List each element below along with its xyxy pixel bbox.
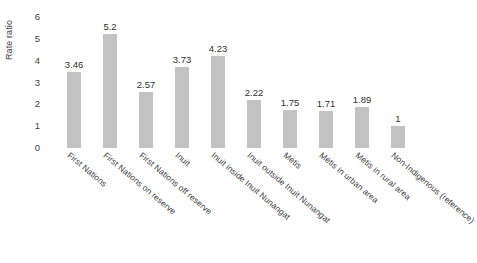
y-axis-tick-1: 1 [24, 121, 40, 131]
y-axis-tick-5: 5 [24, 34, 40, 44]
y-axis-tick-3: 3 [24, 78, 40, 88]
bar-value-label: 1 [376, 113, 420, 124]
bar [283, 110, 297, 148]
bar-value-label: 2.57 [124, 79, 168, 90]
bar-value-label: 3.73 [160, 54, 204, 65]
y-axis-tick-0: 0 [24, 143, 40, 153]
bar-group: 1.75 [272, 17, 308, 148]
bar-group: 1.71 [308, 17, 344, 148]
bar-group: 4.23 [200, 17, 236, 148]
bar [247, 100, 261, 148]
bar-value-label: 3.46 [52, 59, 96, 70]
bar-value-label: 5.2 [88, 21, 132, 32]
bar [67, 72, 81, 148]
x-axis-label-8: Métis in urban area [318, 150, 381, 205]
bar [103, 34, 117, 148]
bar-group: 1.89 [344, 17, 380, 148]
bar-value-label: 4.23 [196, 43, 240, 54]
bar [211, 56, 225, 148]
y-axis-tick-4: 4 [24, 56, 40, 66]
bar [319, 111, 333, 148]
bar [175, 67, 189, 148]
x-axis-label-7: Métis [282, 150, 304, 171]
bar-group: 3.73 [164, 17, 200, 148]
bar [139, 92, 153, 148]
bar-group: 2.57 [128, 17, 164, 148]
plot-area: 3.465.22.573.734.232.221.751.711.891 [48, 17, 426, 148]
bar-group: 3.46 [56, 17, 92, 148]
bar-group: 2.22 [236, 17, 272, 148]
bar-group: 5.2 [92, 17, 128, 148]
y-axis-tick-6: 6 [24, 12, 40, 22]
y-axis-tick-2: 2 [24, 99, 40, 109]
bar-value-label: 1.89 [340, 94, 384, 105]
x-axis-category-labels: First NationsFirst Nations on reserveFir… [48, 150, 430, 263]
x-axis-label-4: Inuit [174, 150, 193, 168]
bar [391, 126, 405, 148]
bar-group: 1 [380, 17, 416, 148]
y-axis-title: Rate ratio [4, 5, 18, 75]
bar [355, 107, 369, 148]
